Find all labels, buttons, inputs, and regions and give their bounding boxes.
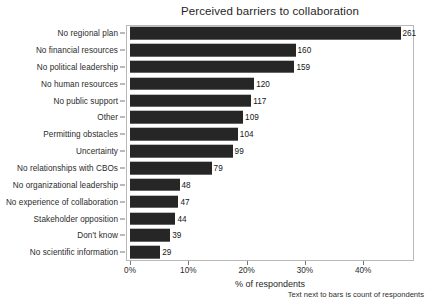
- bar-row: Stakeholder opposition44: [0, 210, 430, 226]
- bar-row: No experience of collaboration47: [0, 194, 430, 210]
- bar-row: Permitting obstacles104: [0, 126, 430, 142]
- bar: [130, 162, 212, 175]
- bar-value-label: 47: [180, 197, 189, 206]
- bar-row: Uncertainty99: [0, 143, 430, 159]
- category-label: Permitting obstacles: [43, 130, 118, 139]
- bar: [130, 179, 180, 192]
- bar-row: No scientific information29: [0, 244, 430, 260]
- bar-value-label: 44: [177, 214, 186, 223]
- y-axis-tick: [120, 83, 125, 84]
- category-label: Don't know: [77, 231, 118, 240]
- bar: [130, 246, 160, 259]
- chart-figure: Perceived barriers to collaboration No r…: [0, 0, 430, 302]
- y-axis-tick: [120, 218, 125, 219]
- chart-caption: Text next to bars is count of respondent…: [288, 290, 424, 299]
- x-axis-title: % of respondents: [126, 279, 414, 289]
- y-axis-tick: [120, 201, 125, 202]
- x-axis-tick: [188, 261, 189, 265]
- bar-value-label: 159: [296, 62, 310, 71]
- bar-rows-container: No regional plan261No financial resource…: [0, 25, 430, 261]
- category-label: No human resources: [41, 79, 118, 88]
- bar-row: No organizational leadership48: [0, 177, 430, 193]
- y-axis-tick: [120, 184, 125, 185]
- bar-row: No public support117: [0, 92, 430, 108]
- y-axis-tick: [120, 134, 125, 135]
- category-label: Other: [97, 113, 118, 122]
- bar-value-label: 79: [214, 163, 223, 172]
- bar-value-label: 48: [182, 180, 191, 189]
- category-label: No scientific information: [30, 248, 118, 257]
- bar-row: No financial resources160: [0, 42, 430, 58]
- x-axis-tick: [363, 261, 364, 265]
- x-axis-tick: [130, 261, 131, 265]
- y-axis-tick: [120, 49, 125, 50]
- x-axis-tick-label: 0%: [124, 266, 136, 275]
- bar-value-label: 104: [240, 130, 254, 139]
- chart-title: Perceived barriers to collaboration: [126, 5, 414, 17]
- bar-value-label: 109: [245, 113, 259, 122]
- category-label: No financial resources: [36, 45, 118, 54]
- bar-row: No regional plan261: [0, 25, 430, 41]
- bar-value-label: 160: [298, 45, 312, 54]
- y-axis-tick: [120, 66, 125, 67]
- bar-value-label: 39: [172, 231, 181, 240]
- bar: [130, 111, 243, 124]
- category-label: Uncertainty: [76, 147, 118, 156]
- x-axis-tick-label: 30%: [297, 266, 313, 275]
- bar-row: Don't know39: [0, 227, 430, 243]
- category-label: No experience of collaboration: [6, 197, 118, 206]
- x-axis-tick: [247, 261, 248, 265]
- y-axis-tick: [120, 252, 125, 253]
- bar: [130, 128, 238, 141]
- bar: [130, 94, 251, 107]
- bar-value-label: 261: [403, 29, 417, 38]
- bar-row: No relationships with CBOs79: [0, 160, 430, 176]
- bar: [130, 77, 254, 90]
- bar-row: No human resources120: [0, 76, 430, 92]
- x-axis: 0%10%20%30%40%: [0, 261, 430, 281]
- bar: [130, 229, 170, 242]
- bar-value-label: 117: [253, 96, 266, 105]
- category-label: No political leadership: [37, 62, 118, 71]
- x-axis-tick-label: 40%: [355, 266, 371, 275]
- bar-value-label: 29: [162, 248, 171, 257]
- bar-row: Other109: [0, 109, 430, 125]
- y-axis-tick: [120, 151, 125, 152]
- category-label: Stakeholder opposition: [34, 214, 118, 223]
- y-axis-tick: [120, 33, 125, 34]
- bar: [130, 61, 294, 74]
- bar: [130, 212, 175, 225]
- bar: [130, 27, 401, 40]
- bar-row: No political leadership159: [0, 59, 430, 75]
- x-axis-tick-label: 20%: [238, 266, 254, 275]
- category-label: No regional plan: [58, 29, 118, 38]
- y-axis-tick: [120, 167, 125, 168]
- x-axis-tick: [305, 261, 306, 265]
- y-axis-tick: [120, 117, 125, 118]
- y-axis-tick: [120, 235, 125, 236]
- x-axis-tick-label: 10%: [180, 266, 196, 275]
- bar-value-label: 120: [256, 79, 270, 88]
- y-axis-tick: [120, 100, 125, 101]
- category-label: No relationships with CBOs: [17, 163, 118, 172]
- bar: [130, 145, 233, 158]
- bar: [130, 195, 178, 208]
- bar: [130, 44, 296, 57]
- category-label: No organizational leadership: [13, 180, 118, 189]
- category-label: No public support: [53, 96, 118, 105]
- bar-value-label: 99: [235, 147, 244, 156]
